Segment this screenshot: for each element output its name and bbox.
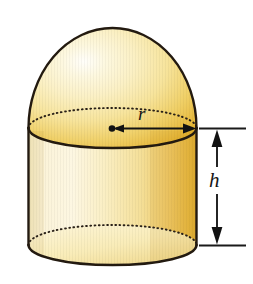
height-arrowhead-bottom	[212, 227, 223, 245]
height-annotation	[199, 129, 246, 246]
solid-diagram-canvas	[0, 0, 253, 284]
height-arrowhead-top	[212, 130, 223, 148]
height-label: h	[209, 170, 220, 191]
radius-label: r	[138, 104, 145, 123]
cylinder-right-shading	[150, 131, 197, 262]
geometry-figure: r h	[0, 0, 253, 284]
